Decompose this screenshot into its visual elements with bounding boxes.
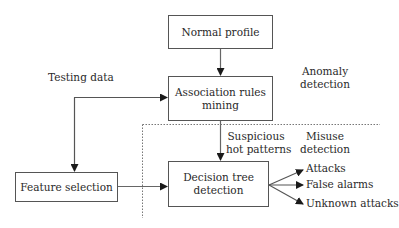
misuse-label-2: detection	[294, 143, 356, 156]
suspicious-label-2: hot patterns	[226, 143, 286, 156]
edge-decision-to-attacks	[269, 170, 303, 185]
output-unknown-attacks: Unknown attacks	[306, 197, 399, 210]
suspicious-hot-patterns-label: Suspicious hot patterns	[226, 130, 286, 156]
anomaly-detection-label: Anomaly detection	[294, 65, 356, 91]
feature-selection-node: Feature selection	[15, 172, 118, 202]
association-rules-label-2: mining	[202, 99, 239, 112]
testing-data-label: Testing data	[48, 71, 114, 84]
decision-tree-node: Decision tree detection	[168, 161, 269, 207]
output-attacks: Attacks	[306, 162, 346, 175]
normal-profile-label: Normal profile	[181, 26, 259, 39]
suspicious-label-1: Suspicious	[226, 130, 286, 143]
association-rules-label-1: Association rules	[175, 86, 266, 99]
decision-tree-label-1: Decision tree	[183, 171, 254, 184]
decision-tree-label-2: detection	[194, 184, 244, 197]
misuse-label-1: Misuse	[294, 130, 356, 143]
feature-selection-label: Feature selection	[20, 181, 112, 194]
normal-profile-node: Normal profile	[168, 15, 273, 49]
anomaly-label-2: detection	[294, 78, 356, 91]
anomaly-label-1: Anomaly	[294, 65, 356, 78]
edge-decision-to-unknown-attacks	[269, 185, 303, 204]
output-false-alarms: False alarms	[306, 178, 373, 191]
misuse-detection-label: Misuse detection	[294, 130, 356, 156]
association-rules-node: Association rules mining	[168, 76, 273, 121]
